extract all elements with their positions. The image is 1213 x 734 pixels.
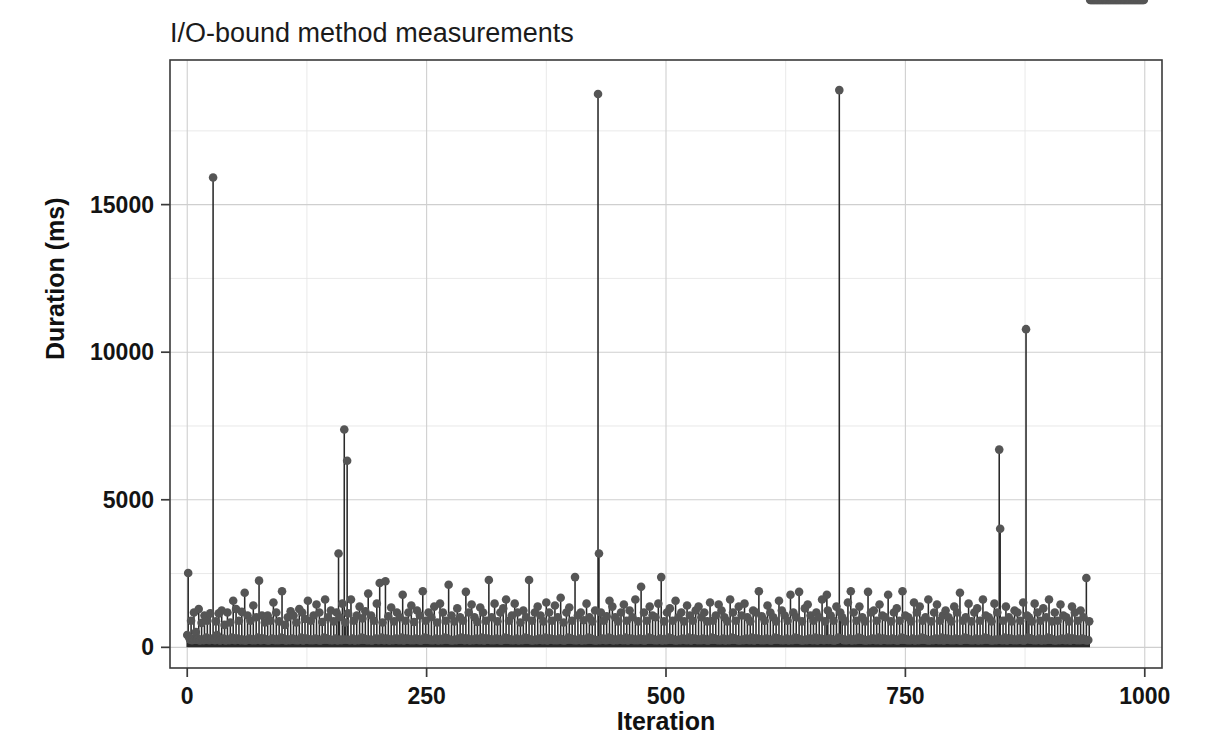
x-tick-label: 1000: [1119, 683, 1170, 709]
page-title: I/O-bound method measurements: [170, 18, 574, 48]
y-axis-ticks: 050001000015000: [90, 192, 170, 661]
x-tick-label: 500: [647, 683, 685, 709]
y-axis-label: Duration (ms): [41, 198, 69, 361]
x-axis-ticks: 02505007501000: [181, 668, 1171, 709]
chart-figure: I/O-bound method measurements Duration (…: [0, 0, 1213, 734]
y-tick-label: 0: [141, 634, 154, 660]
x-tick-label: 750: [886, 683, 924, 709]
y-tick-label: 5000: [103, 487, 154, 513]
stem-plot: I/O-bound method measurements Duration (…: [0, 0, 1213, 734]
x-tick-label: 250: [407, 683, 445, 709]
y-tick-label: 15000: [90, 192, 154, 218]
y-tick-label: 10000: [90, 339, 154, 365]
x-tick-label: 0: [181, 683, 194, 709]
x-axis-label: Iteration: [617, 707, 716, 734]
